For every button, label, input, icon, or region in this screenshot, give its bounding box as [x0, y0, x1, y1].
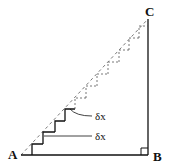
hypotenuse-ac	[21, 19, 148, 155]
dashed-step-6	[129, 38, 139, 50]
vertex-label-c: C	[145, 4, 154, 19]
triangle-diagram: δxδx A B C	[0, 0, 170, 168]
vertex-label-b: B	[153, 149, 162, 164]
dashed-step-2	[86, 86, 97, 98]
delta-x-label-1: δx	[95, 110, 106, 122]
dashed-step-7	[139, 26, 148, 38]
dashed-step-4	[108, 62, 119, 74]
delta-x-label-2: δx	[95, 130, 106, 142]
right-angle-marker	[141, 148, 148, 155]
dashed-step-5	[119, 50, 129, 62]
leader-line-1	[70, 109, 92, 116]
vertex-label-a: A	[8, 147, 18, 162]
solid-step-4	[65, 109, 75, 121]
dashed-step-3	[97, 74, 108, 86]
solid-staircase	[32, 109, 75, 155]
delta-x-annotations: δxδx	[44, 109, 106, 142]
dashed-step-1	[75, 98, 86, 109]
solid-step-2	[43, 132, 55, 144]
solid-step-1	[32, 144, 43, 155]
dashed-staircase	[75, 26, 148, 109]
solid-step-3	[55, 121, 65, 132]
